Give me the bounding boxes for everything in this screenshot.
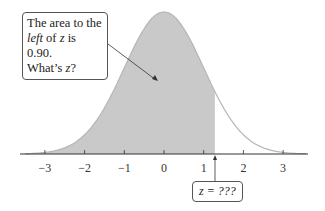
tick-label: −3 <box>39 161 52 176</box>
callout-text: of <box>43 31 60 45</box>
z-value-callout: z = ??? <box>192 181 243 202</box>
tick-label: 3 <box>280 161 286 176</box>
tick-label: 2 <box>240 161 246 176</box>
question-callout: The area to the left of z is 0.90. What’… <box>22 12 108 80</box>
z-arrowhead <box>213 155 217 160</box>
callout-left-word: left <box>27 31 43 45</box>
tick-label: −1 <box>118 161 131 176</box>
callout-text: ? <box>70 61 76 75</box>
callout-text: What’s <box>27 61 66 75</box>
tick-label: 1 <box>201 161 207 176</box>
tick-label: 0 <box>161 161 167 176</box>
callout-text: The area to the <box>27 16 102 30</box>
tick-label: −2 <box>78 161 91 176</box>
